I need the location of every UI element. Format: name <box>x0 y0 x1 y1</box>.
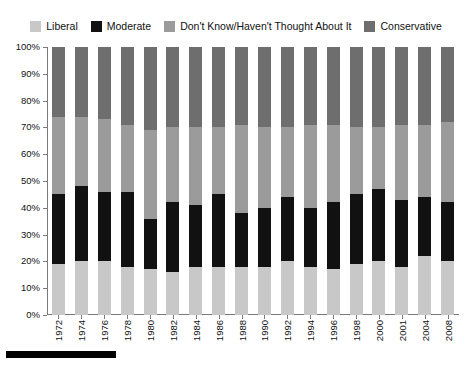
bar-segment <box>189 205 202 267</box>
y-axis-tick-label: 10% <box>0 282 40 293</box>
bar-2004 <box>418 47 431 315</box>
y-axis-tick-label: 70% <box>0 121 40 132</box>
bar-1984 <box>189 47 202 315</box>
bar-segment <box>212 127 225 194</box>
bar-segment <box>395 47 408 125</box>
bar-segment <box>98 261 111 315</box>
bar-1998 <box>350 47 363 315</box>
legend-item-label: Moderate <box>107 21 151 32</box>
bar-segment <box>327 125 340 203</box>
bar-1994 <box>304 47 317 315</box>
x-axis-tick <box>287 315 288 319</box>
legend-swatch-icon <box>30 21 41 32</box>
x-axis-tick-label: 1996 <box>328 320 339 341</box>
legend-swatch-icon <box>364 21 375 32</box>
bar-segment <box>75 261 88 315</box>
y-axis-tick-label: 100% <box>0 41 40 52</box>
x-axis-tick <box>425 315 426 319</box>
bar-segment <box>441 47 454 122</box>
bar-2001 <box>395 47 408 315</box>
bar-segment <box>258 208 271 267</box>
bar-segment <box>75 186 88 261</box>
legend-item-label: Conservative <box>380 21 441 32</box>
x-axis-tick-label: 1974 <box>76 320 87 341</box>
x-axis-tick <box>58 315 59 319</box>
bar-segment <box>304 47 317 125</box>
bar-segment <box>52 47 65 117</box>
y-axis-tick-label: 20% <box>0 255 40 266</box>
x-axis-tick <box>356 315 357 319</box>
x-axis-tick-label: 1990 <box>259 320 270 341</box>
y-axis-tick <box>43 127 47 128</box>
bar-segment <box>121 192 134 267</box>
bar-segment <box>395 125 408 200</box>
bar-1978 <box>121 47 134 315</box>
x-axis-tick-label: 1992 <box>282 320 293 341</box>
bar-segment <box>212 194 225 266</box>
bar-segment <box>350 264 363 315</box>
x-axis-tick <box>379 315 380 319</box>
bar-segment <box>418 197 431 256</box>
bar-segment <box>304 125 317 208</box>
bar-segment <box>235 213 248 267</box>
bar-segment <box>52 264 65 315</box>
bar-segment <box>372 127 385 189</box>
x-axis-tick-label: 2001 <box>397 320 408 341</box>
bar-segment <box>235 47 248 125</box>
bar-segment <box>304 267 317 315</box>
y-axis-tick <box>43 208 47 209</box>
bar-segment <box>281 261 294 315</box>
x-axis-tick-label: 1978 <box>122 320 133 341</box>
plot-area: 0%10%20%30%40%50%60%70%80%90%100% <box>47 47 459 315</box>
bar-segment <box>441 261 454 315</box>
y-axis-tick <box>43 47 47 48</box>
x-axis-tick <box>173 315 174 319</box>
bar-segment <box>418 125 431 197</box>
bar-segment <box>52 194 65 264</box>
bar-segment <box>372 189 385 261</box>
bar-segment <box>189 47 202 127</box>
bar-segment <box>121 125 134 192</box>
bar-segment <box>418 256 431 315</box>
y-axis-tick-label: 0% <box>0 309 40 320</box>
y-axis-tick <box>43 235 47 236</box>
bar-segment <box>98 119 111 191</box>
bar-segment <box>212 267 225 315</box>
y-axis-tick-label: 90% <box>0 68 40 79</box>
x-axis-tick-label: 1980 <box>145 320 156 341</box>
bar-1988 <box>235 47 248 315</box>
bar-1976 <box>98 47 111 315</box>
bar-segment <box>235 125 248 213</box>
y-axis-tick-label: 40% <box>0 202 40 213</box>
bar-segment <box>144 269 157 315</box>
legend-swatch-icon <box>91 21 102 32</box>
bar-segment <box>281 47 294 127</box>
legend-item: Moderate <box>91 21 151 32</box>
bar-1986 <box>212 47 225 315</box>
x-axis-tick <box>219 315 220 319</box>
x-axis-tick-label: 1972 <box>53 320 64 341</box>
y-axis-line <box>47 47 48 315</box>
y-axis-tick <box>43 101 47 102</box>
bar-segment <box>441 202 454 261</box>
bar-segment <box>212 47 225 127</box>
bar-segment <box>441 122 454 202</box>
bar-1982 <box>166 47 179 315</box>
bar-1980 <box>144 47 157 315</box>
bar-segment <box>166 127 179 202</box>
bar-segment <box>189 127 202 205</box>
x-axis-tick-label: 2000 <box>374 320 385 341</box>
x-axis-tick-label: 1994 <box>305 320 316 341</box>
bar-segment <box>121 47 134 125</box>
x-axis-tick <box>196 315 197 319</box>
bar-2008 <box>441 47 454 315</box>
x-axis-tick <box>150 315 151 319</box>
y-axis-tick <box>43 288 47 289</box>
bar-segment <box>166 202 179 272</box>
bottom-rule <box>6 351 116 358</box>
x-axis-tick <box>104 315 105 319</box>
bar-segment <box>304 208 317 267</box>
x-axis-tick <box>81 315 82 319</box>
chart-legend: LiberalModerateDon't Know/Haven't Though… <box>0 18 472 34</box>
bar-segment <box>281 127 294 197</box>
